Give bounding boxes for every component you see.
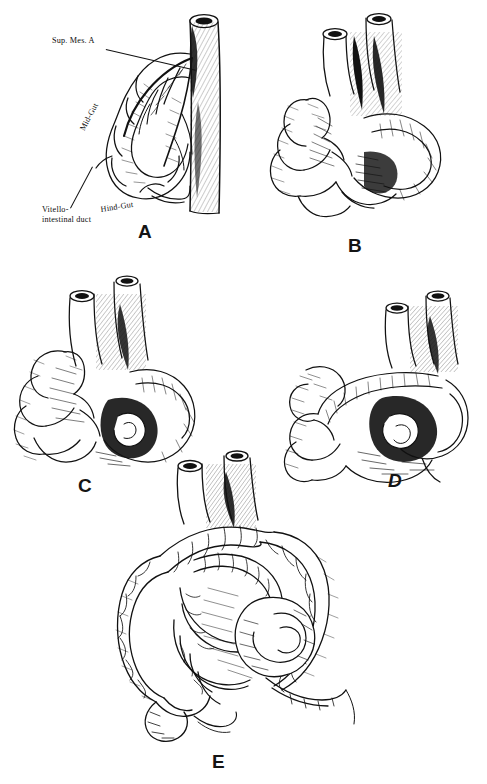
panel-letter-c: C [78,476,92,495]
figure-panel-b [246,6,478,238]
panel-letter-e: E [212,752,225,771]
annotation-sup-mes-a: Sup. Mes. A [52,36,95,46]
figure-panel-c [4,270,232,478]
panel-letter-b: B [348,236,362,255]
annotation-vitello-duct-line2: intestinal duct [42,215,91,225]
illustration-plate: Sup. Mes. A Mid-Gut Hind-Gut Vitello- in… [0,0,487,784]
annotation-vitello-duct-line1: Vitello- [42,205,69,215]
panel-letter-a: A [138,222,152,241]
figure-panel-e [98,448,404,748]
